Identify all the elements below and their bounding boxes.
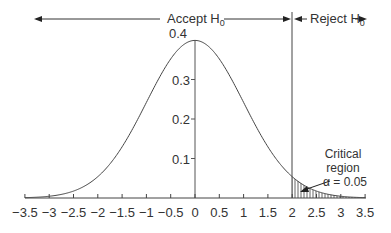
x-tick-label: 3.5 <box>356 205 374 220</box>
x-tick-label: 0 <box>191 205 198 220</box>
x-tick-label: −3 <box>42 205 57 220</box>
x-tick-label: 3 <box>337 205 344 220</box>
reject-region-indicator: Reject H0 <box>294 11 367 28</box>
x-tick-label: −1.5 <box>109 205 135 220</box>
normal-distribution-chart: Accept H0 Reject H0 0.10.20.30.4 −3.5−3−… <box>0 0 391 233</box>
accept-region-indicator: Accept H0 <box>34 11 291 28</box>
y-tick-label: 0.1 <box>172 152 190 167</box>
x-tick-label: 1.5 <box>259 205 277 220</box>
x-tick-label: 2.5 <box>307 205 325 220</box>
y-tick-label: 0.3 <box>172 73 190 88</box>
y-tick-label: 0.4 <box>169 26 187 41</box>
x-tick-label: −2.5 <box>61 205 87 220</box>
critical-label-line2: region <box>326 161 359 175</box>
critical-label-line1: Critical <box>325 147 362 161</box>
critical-label-alpha: α = 0.05 <box>323 175 367 189</box>
y-axis-ticks: 0.10.20.30.4 <box>169 26 195 167</box>
x-tick-label: −0.5 <box>158 205 184 220</box>
critical-region-annotation: Critical region α = 0.05 <box>300 147 367 192</box>
accept-arrowhead-right-icon <box>283 16 291 22</box>
x-tick-label: 1 <box>240 205 247 220</box>
x-tick-label: 0.5 <box>210 205 228 220</box>
x-tick-label: −3.5 <box>12 205 38 220</box>
x-tick-label: 2 <box>289 205 296 220</box>
x-tick-label: −1 <box>139 205 154 220</box>
y-tick-label: 0.2 <box>172 112 190 127</box>
accept-arrowhead-left-icon <box>34 16 42 22</box>
x-tick-label: −2 <box>90 205 105 220</box>
